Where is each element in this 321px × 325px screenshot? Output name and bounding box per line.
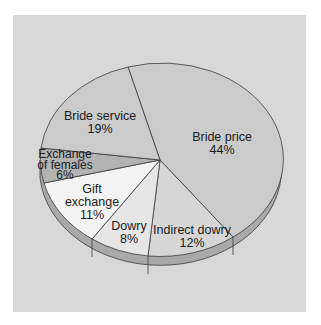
label-dowry-value: 8%: [111, 233, 146, 246]
label-gift-exchange: Gift exchange 11%: [65, 183, 119, 222]
label-exchange-of-females: Exchange of females 6%: [37, 149, 92, 181]
label-dowry: Dowry 8%: [111, 220, 146, 246]
label-bride-price-value: 44%: [192, 144, 252, 157]
label-bride-service-value: 19%: [64, 123, 136, 136]
label-indirect-dowry: Indirect dowry 12%: [153, 224, 231, 250]
label-bride-price: Bride price 44%: [192, 131, 252, 157]
label-exchange-of-females-value: 6%: [37, 170, 92, 181]
label-bride-service: Bride service 19%: [64, 110, 136, 136]
label-indirect-dowry-value: 12%: [153, 237, 231, 250]
